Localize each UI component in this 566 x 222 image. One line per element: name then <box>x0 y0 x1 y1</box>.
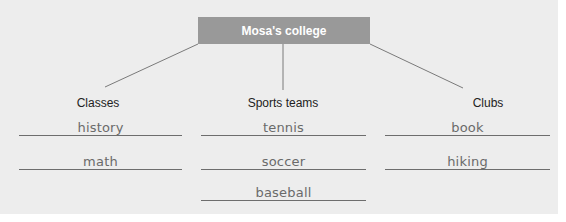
answer-text: history <box>19 120 182 135</box>
title-box: Mosa's college <box>198 17 370 44</box>
answer-line[interactable]: soccer <box>201 169 366 170</box>
answer-text: book <box>385 120 550 135</box>
answer-line[interactable]: history <box>19 135 182 136</box>
connector-classes <box>105 44 198 87</box>
heading-classes: Classes <box>77 96 120 110</box>
answer-line[interactable]: book <box>385 135 550 136</box>
answer-line[interactable]: hiking <box>385 169 550 170</box>
answer-text: math <box>19 154 182 169</box>
answer-line[interactable]: tennis <box>201 135 366 136</box>
answer-line[interactable]: baseball <box>201 200 366 201</box>
heading-clubs: Clubs <box>473 96 504 110</box>
connector-clubs <box>370 44 463 88</box>
answer-text: soccer <box>201 154 366 169</box>
answer-text: baseball <box>201 185 366 200</box>
heading-sports-teams: Sports teams <box>248 96 319 110</box>
answer-text: tennis <box>201 120 366 135</box>
answer-line[interactable]: math <box>19 169 182 170</box>
answer-text: hiking <box>385 154 550 169</box>
